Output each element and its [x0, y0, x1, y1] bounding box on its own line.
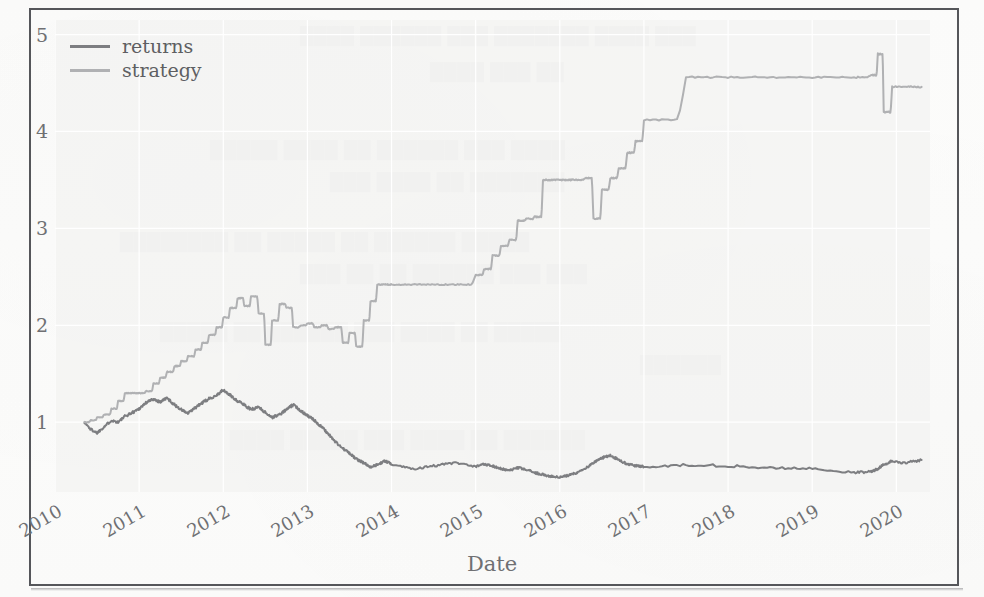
x-axis-tick-label: 2020 [856, 500, 906, 541]
chart-canvas [55, 20, 930, 492]
y-axis-tick-label: 5 [36, 24, 48, 46]
scan-page-shadow [31, 588, 963, 591]
x-axis-tick-label: 2019 [772, 500, 822, 541]
y-axis-tick-label: 2 [36, 314, 48, 336]
legend-label-strategy: strategy [122, 59, 202, 81]
x-axis-tick-label: 2010 [15, 500, 65, 541]
legend-entry-returns[interactable]: returns [70, 34, 202, 58]
series-line-returns [84, 390, 921, 478]
x-axis-tick-label: 2015 [436, 500, 486, 541]
data-series-group [84, 53, 921, 478]
y-axis-tick-label: 3 [36, 217, 48, 239]
x-axis-tick-label: 2017 [604, 500, 654, 541]
x-axis-tick-label: 2018 [688, 500, 738, 541]
x-axis-tick-label: 2016 [520, 500, 570, 541]
x-axis-tick-label: 2011 [99, 500, 149, 541]
x-axis-tick-label: 2014 [352, 500, 402, 541]
x-axis-title: Date [0, 552, 984, 576]
legend-label-returns: returns [122, 35, 193, 57]
x-axis-tick-label: 2012 [183, 500, 233, 541]
x-axis-tick-label: 2013 [268, 500, 318, 541]
y-axis-tick-label: 4 [36, 120, 48, 142]
chart-page: ████ ██████ ███ ███████ ████ ███ ████ ██… [0, 0, 984, 597]
y-axis-tick-label: 1 [36, 411, 48, 433]
legend-entry-strategy[interactable]: strategy [70, 58, 202, 82]
plot-area [55, 20, 930, 492]
chart-legend: returns strategy [62, 30, 210, 86]
legend-line-swatch-strategy [70, 69, 110, 72]
series-line-strategy [84, 53, 921, 422]
x-axis-tick-labels: 2010201120122013201420152016201720182019… [0, 500, 984, 560]
legend-line-swatch-returns [70, 45, 110, 48]
